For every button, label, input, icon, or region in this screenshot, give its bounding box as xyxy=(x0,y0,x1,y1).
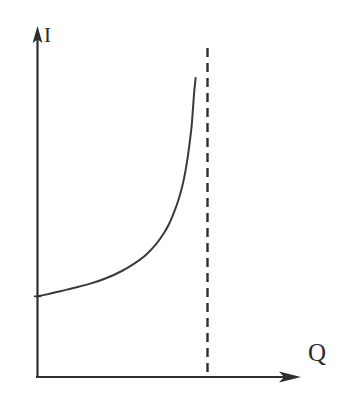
x-axis xyxy=(36,372,301,383)
iq-curve-path xyxy=(38,78,196,296)
iq-curve-chart xyxy=(0,0,359,405)
x-axis-label: Q xyxy=(308,340,326,365)
figure-container: I Q xyxy=(0,0,359,405)
y-axis xyxy=(33,26,43,377)
y-axis-label: I xyxy=(44,25,51,46)
